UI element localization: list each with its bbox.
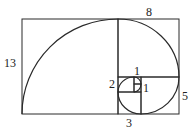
square-size-labels: 13853211 (4, 5, 188, 130)
label-2: 2 (109, 77, 115, 91)
label-5: 5 (182, 89, 188, 103)
label-8: 8 (146, 5, 152, 19)
label-1: 1 (143, 81, 149, 95)
label-13: 13 (4, 56, 16, 70)
golden-spiral-curve (22, 19, 179, 114)
fibonacci-spiral-diagram: 13853211 (0, 0, 190, 136)
square-13 (22, 19, 118, 114)
label-1: 1 (134, 64, 140, 78)
square-8 (118, 19, 179, 77)
label-3: 3 (126, 116, 132, 130)
fibonacci-squares (22, 19, 179, 114)
